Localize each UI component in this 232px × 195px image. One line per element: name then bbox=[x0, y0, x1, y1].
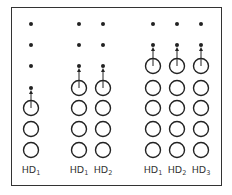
filled-node-circle bbox=[194, 101, 209, 116]
empty-slot-dot bbox=[77, 22, 81, 26]
filled-node-circle bbox=[170, 122, 185, 137]
filled-node-circle bbox=[194, 81, 209, 96]
filled-node-circle bbox=[170, 101, 185, 116]
column-label: HD1 bbox=[22, 164, 41, 177]
column-6 bbox=[194, 22, 209, 158]
filled-node-circle bbox=[146, 122, 161, 137]
filled-node-circle bbox=[146, 81, 161, 96]
arrow-head-icon bbox=[199, 47, 203, 51]
column-label: HD2 bbox=[168, 164, 187, 177]
arrow-head-icon bbox=[29, 90, 33, 94]
empty-slot-dot bbox=[77, 64, 81, 68]
filled-node-circle bbox=[72, 143, 87, 158]
empty-slot-dot bbox=[175, 43, 179, 47]
empty-slot-dot bbox=[175, 22, 179, 26]
filled-node-circle bbox=[194, 122, 209, 137]
filled-node-circle bbox=[96, 143, 111, 158]
column-5 bbox=[170, 22, 185, 158]
filled-node-circle bbox=[24, 143, 39, 158]
empty-slot-dot bbox=[101, 64, 105, 68]
column-label: HD1 bbox=[70, 164, 89, 177]
filled-node-circle bbox=[96, 101, 111, 116]
empty-slot-dot bbox=[29, 86, 33, 90]
filled-node-circle bbox=[96, 122, 111, 137]
filled-node-circle bbox=[170, 143, 185, 158]
empty-slot-dot bbox=[77, 43, 81, 47]
filled-node-circle bbox=[146, 101, 161, 116]
empty-slot-dot bbox=[29, 64, 33, 68]
empty-slot-dot bbox=[101, 22, 105, 26]
filled-node-circle bbox=[194, 143, 209, 158]
column-4 bbox=[146, 22, 161, 158]
arrow-head-icon bbox=[151, 47, 155, 51]
column-label: HD1 bbox=[144, 164, 163, 177]
filled-node-circle bbox=[72, 101, 87, 116]
arrow-head-icon bbox=[77, 68, 81, 72]
column-2 bbox=[72, 22, 87, 158]
empty-slot-dot bbox=[29, 22, 33, 26]
column-label: HD3 bbox=[192, 164, 211, 177]
filled-node-circle bbox=[170, 81, 185, 96]
column-1 bbox=[24, 22, 39, 158]
empty-slot-dot bbox=[199, 22, 203, 26]
empty-slot-dot bbox=[101, 43, 105, 47]
arrow-head-icon bbox=[175, 47, 179, 51]
column-label: HD2 bbox=[94, 164, 113, 177]
column-3 bbox=[96, 22, 111, 158]
filled-node-circle bbox=[72, 122, 87, 137]
empty-slot-dot bbox=[151, 22, 155, 26]
arrow-head-icon bbox=[101, 68, 105, 72]
filled-node-circle bbox=[146, 143, 161, 158]
empty-slot-dot bbox=[29, 43, 33, 47]
empty-slot-dot bbox=[199, 43, 203, 47]
empty-slot-dot bbox=[151, 43, 155, 47]
filled-node-circle bbox=[24, 122, 39, 137]
